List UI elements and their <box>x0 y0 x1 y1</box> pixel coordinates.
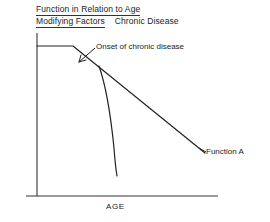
x-axis-label: AGE <box>106 202 125 211</box>
annotation-onset-label: Onset of chronic disease <box>96 42 184 51</box>
annotation-function-a-label: Function A <box>206 147 244 156</box>
plot-area <box>0 0 270 222</box>
series-function-a-line <box>37 46 205 153</box>
series-chronic-disease-curve <box>99 66 117 176</box>
figure-container: Function in Relation to Age Modifying Fa… <box>0 0 270 222</box>
